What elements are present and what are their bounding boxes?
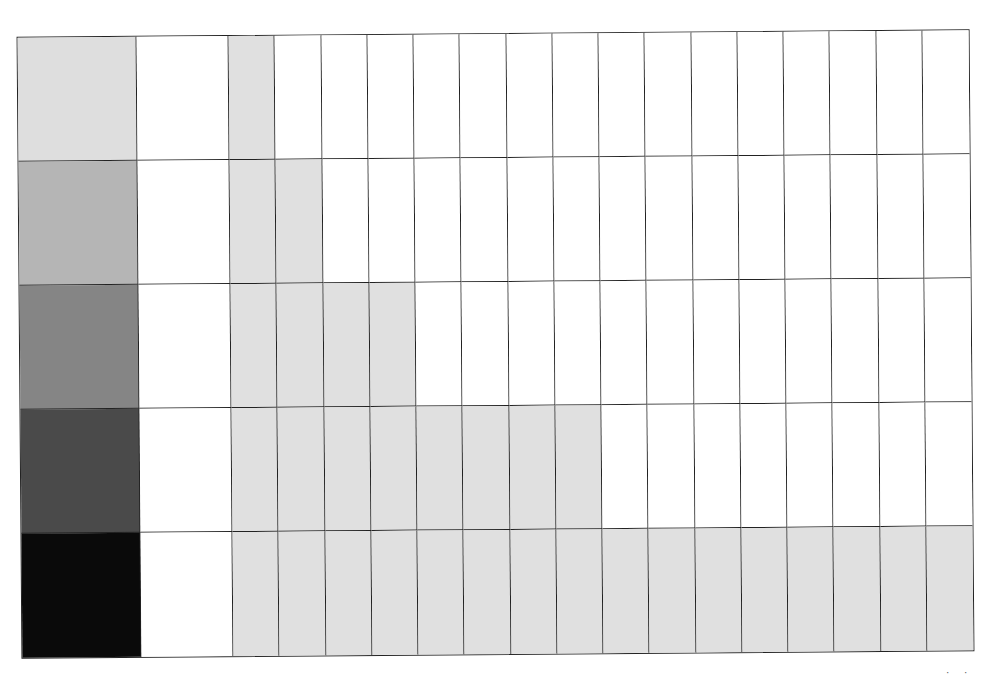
empty-cell — [321, 35, 368, 159]
empty-cell — [737, 32, 784, 156]
empty-cell — [416, 282, 463, 406]
empty-cell — [415, 158, 462, 282]
shaded-cell — [649, 528, 696, 652]
empty-cell — [694, 404, 741, 528]
shaded-cell — [277, 283, 324, 407]
empty-cell — [740, 404, 787, 528]
empty-cell — [924, 278, 971, 402]
empty-cell — [876, 31, 923, 155]
empty-cell — [462, 282, 509, 406]
empty-cell — [414, 34, 461, 158]
empty-cell — [786, 279, 833, 403]
gray-swatch — [18, 37, 138, 162]
empty-cell — [692, 156, 739, 280]
empty-cell — [506, 34, 553, 158]
empty-cell — [601, 405, 648, 529]
shaded-cell — [416, 406, 463, 530]
shaded-cell — [926, 526, 973, 650]
shaded-cell — [463, 406, 510, 530]
empty-cell — [599, 33, 646, 157]
shaded-cell — [741, 528, 788, 652]
empty-cell — [785, 155, 832, 279]
empty-cell — [645, 32, 692, 156]
empty-cell — [784, 31, 831, 155]
corner-marks: · · — [946, 667, 973, 675]
shaded-cell — [229, 36, 276, 160]
shaded-cell — [370, 407, 417, 531]
shaded-cell — [787, 527, 834, 651]
empty-cell — [554, 281, 601, 405]
blank-column-cell — [139, 284, 232, 409]
empty-cell — [601, 281, 648, 405]
empty-cell — [461, 158, 508, 282]
empty-cell — [600, 157, 647, 281]
shaded-cell — [834, 527, 881, 651]
shaded-cell — [880, 527, 927, 651]
shaded-cell — [556, 529, 603, 653]
gray-swatch — [21, 409, 141, 534]
empty-cell — [322, 159, 369, 283]
shaded-cell — [602, 529, 649, 653]
empty-cell — [739, 280, 786, 404]
empty-cell — [831, 155, 878, 279]
empty-cell — [552, 33, 599, 157]
empty-cell — [647, 280, 694, 404]
empty-cell — [879, 403, 926, 527]
shaded-cell — [325, 531, 372, 655]
empty-cell — [786, 403, 833, 527]
blank-column-cell — [139, 408, 232, 533]
gray-swatch — [21, 533, 141, 658]
empty-cell — [275, 35, 322, 159]
shaded-cell — [510, 530, 557, 654]
shaded-cell — [278, 407, 325, 531]
shaded-cell — [464, 530, 511, 654]
empty-cell — [923, 154, 970, 278]
empty-cell — [832, 279, 879, 403]
empty-cell — [368, 159, 415, 283]
empty-cell — [925, 402, 972, 526]
shaded-cell — [695, 528, 742, 652]
gray-swatch — [20, 285, 140, 410]
shaded-cell — [555, 405, 602, 529]
empty-cell — [507, 158, 554, 282]
empty-cell — [367, 35, 414, 159]
shaded-cell — [417, 530, 464, 654]
shaded-cell — [279, 531, 326, 655]
blank-column-cell — [137, 36, 230, 161]
empty-cell — [553, 157, 600, 281]
shading-grid — [17, 29, 975, 658]
shaded-cell — [371, 531, 418, 655]
blank-column-cell — [140, 532, 233, 657]
shaded-cell — [230, 160, 277, 284]
empty-cell — [646, 156, 693, 280]
empty-cell — [877, 155, 924, 279]
empty-cell — [922, 30, 969, 154]
gray-swatch — [19, 161, 139, 286]
shaded-cell — [369, 283, 416, 407]
empty-cell — [833, 403, 880, 527]
empty-cell — [878, 279, 925, 403]
shaded-cell — [231, 408, 278, 532]
shaded-cell — [231, 284, 278, 408]
blank-column-cell — [138, 160, 231, 285]
empty-cell — [460, 34, 507, 158]
shaded-cell — [232, 532, 279, 656]
shaded-cell — [509, 406, 556, 530]
empty-cell — [693, 280, 740, 404]
empty-cell — [830, 31, 877, 155]
shaded-cell — [324, 407, 371, 531]
empty-cell — [738, 156, 785, 280]
shaded-cell — [276, 159, 323, 283]
empty-cell — [508, 282, 555, 406]
empty-cell — [691, 32, 738, 156]
empty-cell — [648, 404, 695, 528]
shaded-cell — [323, 283, 370, 407]
